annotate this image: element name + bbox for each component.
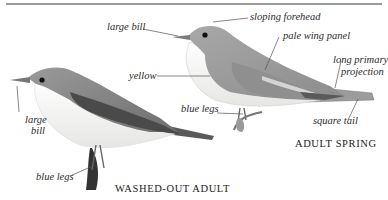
label-long-primary: long primary: [333, 55, 388, 66]
label-pale-wing-panel: pale wing panel: [283, 31, 350, 42]
label-bill: bill: [31, 126, 45, 137]
caption-adult-spring: ADULT SPRING: [295, 139, 377, 150]
label-yellow: yellow: [129, 71, 156, 82]
label-sloping-forehead: sloping forehead: [250, 12, 320, 23]
label-blue-legs-spring: blue legs: [181, 104, 219, 115]
label-blue-legs-washed: blue legs: [36, 172, 74, 183]
label-large-bill: large bill: [107, 22, 145, 33]
caption-washed-out-adult: WASHED-OUT ADULT: [115, 184, 230, 195]
label-square-tail: square tail: [313, 116, 358, 127]
label-large: large: [25, 115, 47, 126]
label-projection: projection: [341, 67, 384, 78]
